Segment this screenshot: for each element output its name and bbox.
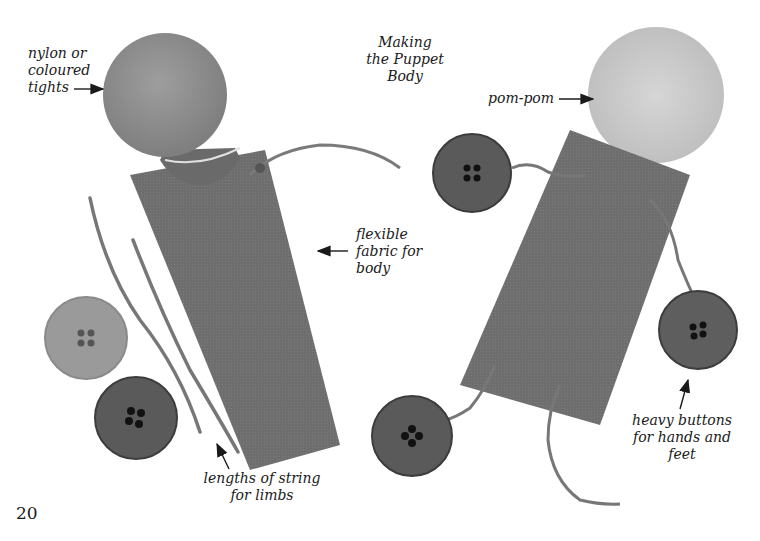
- dark-button: [95, 377, 177, 459]
- arrow-buttons: [680, 380, 688, 409]
- left-arm-string: [250, 145, 400, 175]
- pom-pom-ball: [588, 27, 724, 163]
- label-buttons: heavy buttons for hands and feet: [612, 412, 752, 463]
- light-button: [45, 297, 127, 379]
- label-limbs: lengths of string for limbs: [192, 470, 332, 504]
- page-number: 20: [16, 503, 38, 523]
- arrow-limbs: [217, 444, 229, 469]
- button-top-left: [433, 134, 511, 212]
- label-pom-pom: pom-pom: [488, 90, 554, 107]
- label-body-fabric: flexible fabric for body: [356, 226, 422, 277]
- label-head-material: nylon or coloured tights: [28, 45, 90, 96]
- button-right: [659, 291, 737, 369]
- page-title: Making the Puppet Body: [355, 34, 455, 85]
- left-head-ball: [103, 33, 227, 157]
- button-bottom-left: [372, 396, 452, 476]
- left-arm-knot: [255, 163, 265, 173]
